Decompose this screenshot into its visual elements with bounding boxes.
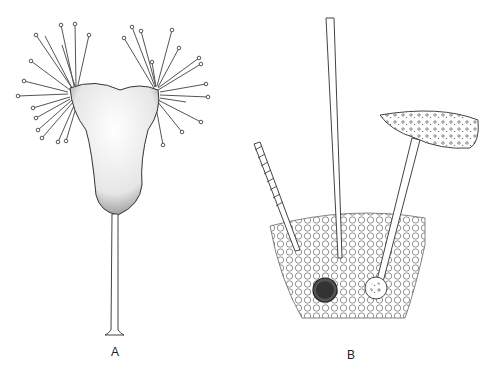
organism-a-illustration bbox=[0, 0, 250, 373]
tissue-b-illustration bbox=[240, 0, 495, 373]
panel-label-b: B bbox=[347, 348, 355, 362]
stalk-shape bbox=[105, 214, 124, 335]
tissue-mass bbox=[270, 213, 425, 318]
panel-b: B bbox=[240, 0, 495, 373]
panel-label-a: A bbox=[111, 345, 119, 359]
prey-fragment bbox=[380, 111, 478, 148]
body-shape bbox=[70, 83, 159, 215]
panel-a: A bbox=[0, 0, 250, 373]
